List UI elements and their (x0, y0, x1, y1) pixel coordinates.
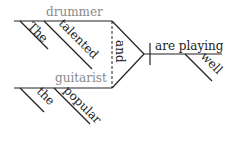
subject2-noun: guitarist (55, 71, 107, 85)
predicate-verb: are playing (155, 39, 224, 53)
sentence-diagram: drummer The talented guitarist the popul… (0, 0, 232, 142)
conjunction: and (113, 40, 127, 63)
modifier-the-upper: The (25, 19, 51, 45)
modifier-popular: popular (61, 83, 104, 126)
modifier-well: well (198, 49, 226, 77)
subject1-noun: drummer (46, 5, 103, 19)
